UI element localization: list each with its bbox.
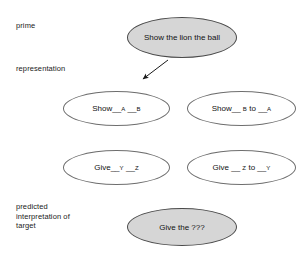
stage-label-representation: representation [16, 64, 65, 74]
node-prime-sentence: Show the lion the ball [127, 17, 237, 58]
node-representation-show-prepositional: Show__ B to __A [187, 91, 296, 126]
rep3-prefix: Give__ [94, 163, 119, 172]
node-representation-show-double-object-label: Show__A __B [92, 104, 140, 113]
node-prime-sentence-label: Show the lion the ball [144, 33, 220, 42]
rep4-arg2: Y [266, 165, 270, 171]
rep3-arg2: Z [135, 165, 139, 171]
rep4-prefix: Give __ [213, 163, 243, 172]
stage-label-predicted-interpretation-of-target: predicted interpretation of target [16, 202, 70, 231]
rep3-mid: __ [124, 163, 135, 172]
rep1-prefix: Show__ [92, 104, 121, 113]
rep2-prefix: Show__ [212, 104, 243, 113]
node-representation-give-double-object-label: Give__Y __Z [94, 163, 139, 172]
node-representation-give-double-object: Give__Y __Z [63, 150, 170, 185]
node-representation-show-double-object: Show__A __B [63, 91, 170, 126]
rep2-mid: to __ [247, 104, 267, 113]
stage-label-prime: prime [16, 21, 35, 31]
diagram-canvas: prime representation predicted interpret… [0, 0, 304, 257]
rep2-arg2: A [267, 106, 271, 112]
node-representation-give-prepositional: Give __ Z to __Y [187, 150, 296, 185]
node-target-sentence-label: Give the ??? [159, 223, 204, 232]
rep4-mid: to __ [246, 163, 266, 172]
node-representation-give-prepositional-label: Give __ Z to __Y [213, 163, 271, 172]
prime-to-representation-arrow [143, 60, 168, 79]
node-representation-show-prepositional-label: Show__ B to __A [212, 104, 272, 113]
node-target-sentence: Give the ??? [127, 208, 237, 246]
rep1-mid: __ [125, 104, 136, 113]
rep1-arg2: B [137, 106, 141, 112]
